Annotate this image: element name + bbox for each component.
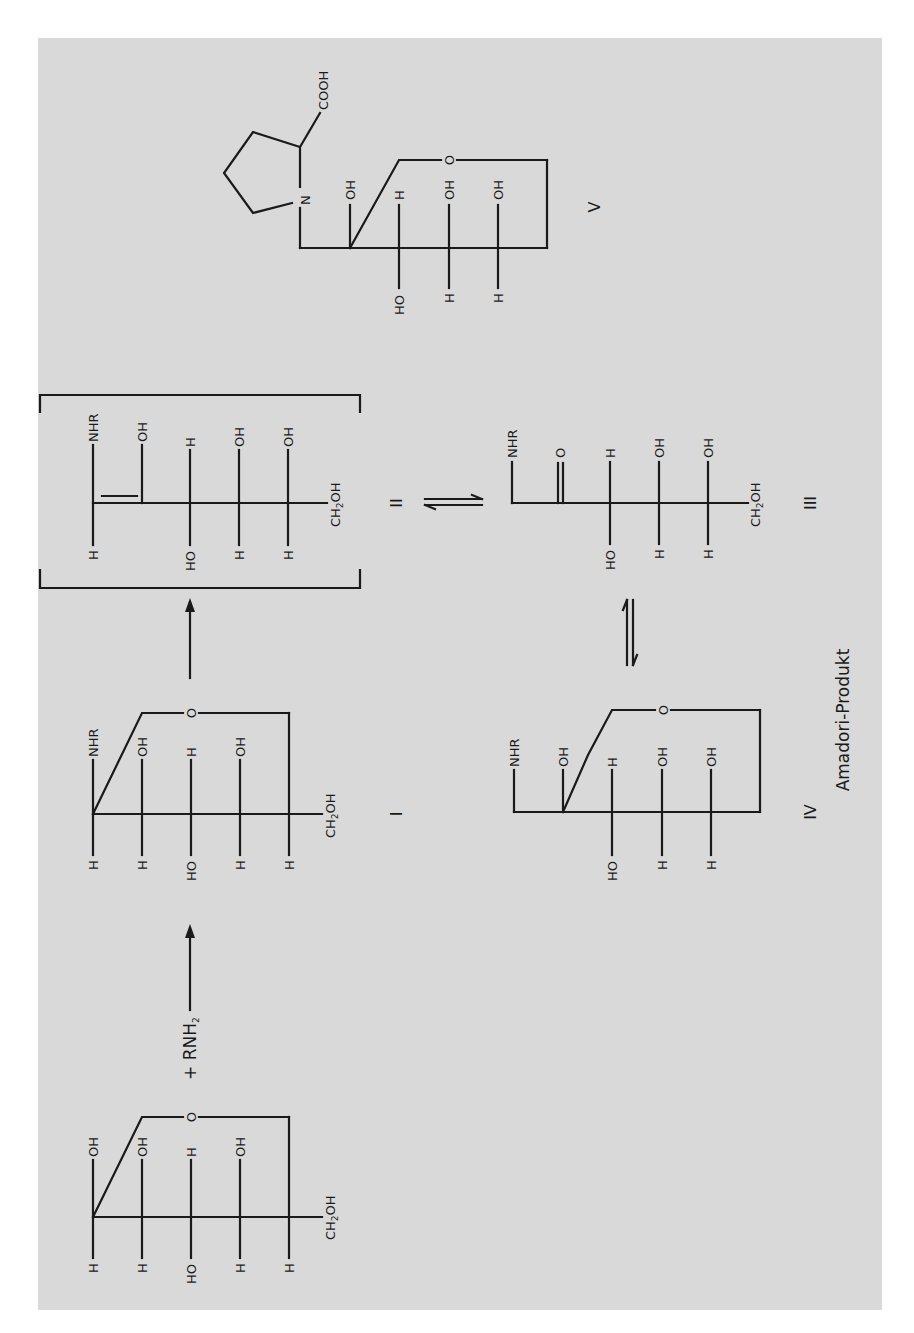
svg-text:OH: OH <box>233 1137 248 1157</box>
caption-amadori-produkt: Amadori-Produkt <box>833 648 853 791</box>
svg-text:O: O <box>184 1112 199 1122</box>
label-III: III <box>801 496 820 510</box>
svg-text:H: H <box>183 437 198 447</box>
svg-text:NHR: NHR <box>86 728 101 757</box>
svg-text:O: O <box>442 155 457 165</box>
svg-text:H: H <box>392 190 407 200</box>
label-I: I <box>387 812 406 817</box>
svg-text:H: H <box>86 860 101 870</box>
label-II: II <box>387 498 406 507</box>
amadori-scheme: O OH OH H OH H H HO H H CH2OH + RNH2 O N… <box>0 0 914 1333</box>
svg-text:OH: OH <box>233 737 248 757</box>
label-V: V <box>585 201 604 212</box>
svg-text:H: H <box>281 550 296 560</box>
svg-text:H: H <box>655 860 670 870</box>
svg-text:OH: OH <box>701 438 716 458</box>
svg-text:OH: OH <box>343 180 358 200</box>
svg-text:H: H <box>135 860 150 870</box>
svg-text:H: H <box>86 550 101 560</box>
svg-text:H: H <box>233 860 248 870</box>
svg-text:H: H <box>232 550 247 560</box>
svg-text:OH: OH <box>491 180 506 200</box>
svg-text:H: H <box>86 1263 101 1273</box>
svg-text:O: O <box>656 705 671 715</box>
svg-text:HO: HO <box>392 295 407 315</box>
svg-text:HO: HO <box>183 551 198 571</box>
svg-text:H: H <box>701 549 716 559</box>
svg-text:H: H <box>605 757 620 767</box>
svg-text:OH: OH <box>652 438 667 458</box>
svg-text:OH: OH <box>135 422 150 442</box>
svg-text:NHR: NHR <box>86 413 101 442</box>
svg-text:H: H <box>491 293 506 303</box>
svg-text:OH: OH <box>232 427 247 447</box>
svg-text:H: H <box>184 1147 199 1157</box>
svg-text:OH: OH <box>655 747 670 767</box>
svg-text:HO: HO <box>603 550 618 570</box>
svg-text:NHR: NHR <box>505 429 520 458</box>
svg-text:OH: OH <box>704 747 719 767</box>
svg-text:O: O <box>184 708 199 718</box>
svg-text:HO: HO <box>605 861 620 881</box>
reagent-rnh2: + RNH2 <box>180 1017 201 1080</box>
svg-text:H: H <box>704 860 719 870</box>
svg-text:COOH: COOH <box>316 71 331 110</box>
svg-text:OH: OH <box>135 1137 150 1157</box>
svg-text:OH: OH <box>281 427 296 447</box>
svg-text:O: O <box>553 448 568 458</box>
svg-text:HO: HO <box>184 1264 199 1284</box>
label-IV: IV <box>801 804 820 820</box>
svg-text:H: H <box>282 1263 297 1273</box>
svg-text:N: N <box>298 195 313 205</box>
figure-panel <box>38 38 882 1310</box>
svg-text:HO: HO <box>184 861 199 881</box>
svg-text:H: H <box>603 448 618 458</box>
svg-text:NHR: NHR <box>507 738 522 767</box>
svg-text:H: H <box>135 1263 150 1273</box>
svg-text:OH: OH <box>135 737 150 757</box>
svg-text:OH: OH <box>442 180 457 200</box>
svg-text:OH: OH <box>556 747 571 767</box>
svg-text:H: H <box>652 549 667 559</box>
svg-text:H: H <box>184 747 199 757</box>
svg-text:H: H <box>233 1263 248 1273</box>
svg-text:H: H <box>442 293 457 303</box>
svg-text:OH: OH <box>86 1137 101 1157</box>
svg-text:H: H <box>282 860 297 870</box>
